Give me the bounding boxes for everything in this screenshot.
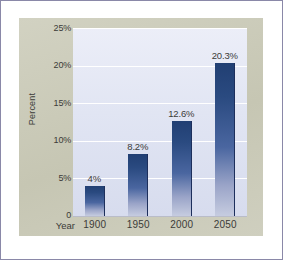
bar-value-1950: 8.2% [127,141,148,152]
chart-panel: Percent 25% 20% 15% 10% 5% 0 4% [19,18,263,236]
x-axis-baseline [73,216,247,217]
y-tick-label-10: 10% [21,136,71,145]
y-axis-tick-labels: 25% 20% 15% 10% 5% 0 [19,18,71,226]
x-axis-tick-labels: 1900 1950 2000 2050 [73,219,247,235]
bar-slot-2000: 12.6% [160,28,204,216]
bar-1900[interactable]: 4% [85,186,105,216]
y-tick-label-5: 5% [21,174,71,183]
x-tick-label-2050: 2050 [204,219,248,235]
y-tick-label-20: 20% [21,61,71,70]
x-tick-label-1950: 1950 [117,219,161,235]
plot-area: 4% 8.2% 12.6% 20.3% [73,28,247,216]
bar-value-1900: 4% [88,173,101,184]
y-tick-label-15: 15% [21,99,71,108]
bar-value-2000: 12.6% [168,108,194,119]
bar-1950[interactable]: 8.2% [128,154,148,216]
figure-frame: Percent 25% 20% 15% 10% 5% 0 4% [0,0,283,260]
bar-slot-1900: 4% [73,28,117,216]
bar-slot-1950: 8.2% [117,28,161,216]
bar-slot-2050: 20.3% [204,28,248,216]
x-tick-label-2000: 2000 [160,219,204,235]
y-tick-label-0: 0 [21,211,71,220]
x-tick-label-1900: 1900 [73,219,117,235]
y-tick-label-25: 25% [21,24,71,33]
bar-2000[interactable]: 12.6% [172,121,192,216]
bar-2050[interactable]: 20.3% [215,63,235,216]
bars-layer: 4% 8.2% 12.6% 20.3% [73,28,247,216]
bar-value-2050: 20.3% [212,50,238,61]
x-axis-title: Year [33,220,75,231]
